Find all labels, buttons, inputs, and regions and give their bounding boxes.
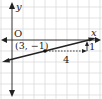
x-axis-left-arrow-icon [1,37,7,43]
y-axis-label: y [16,2,22,12]
run-label: 4 [63,55,69,65]
x-axis-label: x [91,28,97,38]
point-label: (3, −1) [15,41,49,51]
y-axis-up-arrow-icon [9,2,15,9]
rise-label: 1 [89,42,95,52]
line-left-arrow-icon [2,58,10,63]
run-arrowhead-icon [82,49,87,53]
y-axis-down-arrow-icon [9,90,15,97]
origin-label: O [14,29,22,39]
